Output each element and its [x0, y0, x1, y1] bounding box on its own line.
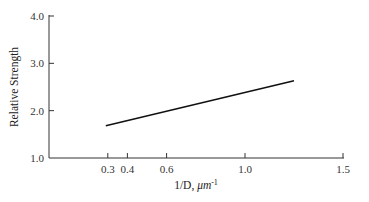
data-series — [106, 81, 294, 126]
y-axis-title: Relative Strength — [8, 47, 21, 127]
series-line — [106, 81, 294, 126]
x-axis-title: 1/D, μm-1 — [174, 178, 218, 192]
x-ticks: 0.30.40.61.01.5 — [101, 153, 350, 175]
x-tick-label: 0.6 — [160, 163, 174, 175]
y-tick-label: 1.0 — [30, 152, 44, 164]
x-tick-label: 1.0 — [238, 163, 252, 175]
y-tick-label: 2.0 — [30, 105, 44, 117]
x-tick-label: 0.4 — [121, 163, 135, 175]
x-tick-label: 1.5 — [336, 163, 350, 175]
chart: 1.02.03.04.0 0.30.40.61.01.5 Relative St… — [0, 0, 369, 202]
x-tick-label: 0.3 — [101, 163, 115, 175]
y-ticks: 1.02.03.04.0 — [30, 10, 54, 164]
y-tick-label: 4.0 — [30, 10, 44, 22]
y-tick-label: 3.0 — [30, 57, 44, 69]
